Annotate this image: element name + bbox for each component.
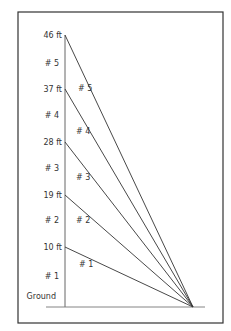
guy-wire-4: [65, 89, 193, 307]
guy-wire-diagram: 46 ft37 ft28 ft19 ft10 ft # 5# 4# 3# 2# …: [0, 0, 231, 331]
segment-label: # 2: [45, 216, 59, 225]
segment-label: # 4: [45, 111, 59, 120]
wire-label: # 2: [76, 216, 90, 225]
wire-label: # 5: [78, 84, 92, 93]
diagram-canvas: 46 ft37 ft28 ft19 ft10 ft # 5# 4# 3# 2# …: [0, 0, 231, 331]
height-label: 28 ft: [43, 138, 62, 147]
segment-label: # 3: [45, 164, 59, 173]
guy-wire-1: [65, 247, 193, 307]
wire-label: # 4: [76, 127, 90, 136]
height-label: 46 ft: [43, 31, 62, 40]
height-label: 19 ft: [43, 191, 62, 200]
height-label: 10 ft: [43, 243, 62, 252]
wire-label: # 3: [76, 173, 90, 182]
height-label: 37 ft: [43, 85, 62, 94]
ground-label: Ground: [27, 292, 56, 301]
segment-label: # 5: [45, 59, 59, 68]
segment-label: # 1: [45, 272, 59, 281]
guy-wire-2: [65, 195, 193, 307]
wire-label: # 1: [79, 260, 93, 269]
